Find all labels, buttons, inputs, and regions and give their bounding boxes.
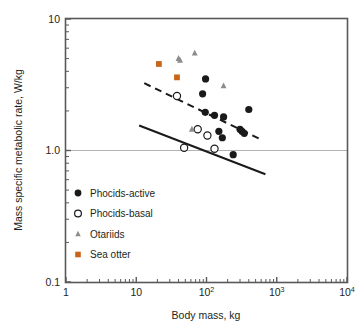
x-tick-label: 1 <box>63 286 69 298</box>
data-point <box>211 145 218 152</box>
data-point <box>181 144 188 151</box>
data-point <box>173 92 180 99</box>
data-point <box>230 151 237 158</box>
legend-marker-filled-circle <box>75 190 82 197</box>
data-point <box>211 112 218 119</box>
data-point <box>202 75 209 82</box>
data-point <box>215 128 222 135</box>
legend-marker-open-circle <box>75 210 82 217</box>
x-tick-label-exponent: 4 <box>351 285 355 294</box>
x-tick-label-exponent: 3 <box>281 285 285 294</box>
legend-label: Phocids-basal <box>90 208 153 219</box>
x-tick-label-base: 10 <box>199 286 211 298</box>
y-tick-label: 0.1 <box>45 276 60 288</box>
data-point <box>204 132 211 139</box>
data-point <box>199 90 206 97</box>
x-tick-label: 10 <box>130 286 142 298</box>
scatter-plot: 110102103104 101.00.1 Mass specific meta… <box>0 0 362 326</box>
legend-marker-filled-square <box>75 252 81 258</box>
data-point <box>219 134 226 141</box>
data-point <box>202 109 209 116</box>
data-point <box>241 130 248 137</box>
x-axis-title: Body mass, kg <box>172 309 241 321</box>
y-tick-label: 10 <box>48 13 60 25</box>
data-point <box>245 106 252 113</box>
x-tick-label-base: 10 <box>339 286 351 298</box>
legend-label: Sea otter <box>90 249 131 260</box>
data-point <box>156 61 162 67</box>
x-tick-label-base: 1 <box>63 286 69 298</box>
data-point <box>194 126 201 133</box>
y-tick-label: 1.0 <box>45 144 60 156</box>
y-axis-title: Mass specific metabolic rate, W/kg <box>12 69 24 231</box>
x-tick-label-base: 10 <box>269 286 281 298</box>
legend-label: Otariids <box>90 229 124 240</box>
data-point <box>174 74 180 80</box>
legend-label: Phocids-active <box>90 188 155 199</box>
x-tick-label-exponent: 2 <box>210 285 214 294</box>
figure-container: 110102103104 101.00.1 Mass specific meta… <box>0 0 362 326</box>
x-tick-label-base: 10 <box>130 286 142 298</box>
data-point <box>220 113 227 120</box>
